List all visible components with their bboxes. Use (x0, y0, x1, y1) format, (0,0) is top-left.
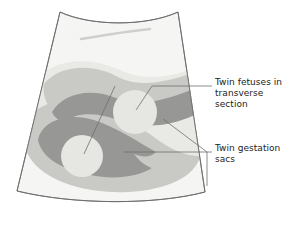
label-twin-fetuses: Twin fetuses in transverse section (215, 77, 291, 111)
label-twin-gestation-sacs: Twin gestation sacs (215, 143, 291, 165)
fetus-upper (113, 90, 157, 134)
ultrasound-fan-image (0, 0, 292, 226)
fetus-lower (61, 135, 103, 177)
figure-canvas: Twin fetuses in transverse section Twin … (0, 0, 292, 226)
